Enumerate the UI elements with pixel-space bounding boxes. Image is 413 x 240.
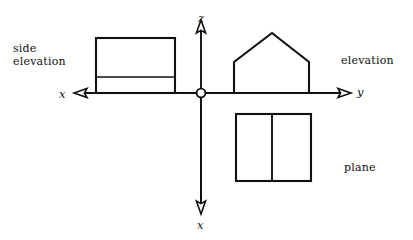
axes-group [74,20,351,214]
plane-view [236,114,311,181]
y-axis-arrowhead [338,88,351,97]
side-elevation-view [96,38,175,93]
plane-label: plane [344,161,376,174]
plane-outline [236,114,311,181]
elevation-label: elevation [341,54,394,67]
origin-marker-icon [197,89,206,98]
diagram-canvas [0,0,413,240]
x-axis-left-label: x [59,88,66,100]
x-axis-left-arrowhead [74,88,87,97]
x-axis-down-label: x [197,219,204,231]
elevation-view [234,33,309,93]
x-axis-down-arrowhead [196,201,205,214]
elevation-outline [234,33,309,93]
z-axis-label: z [198,12,204,24]
y-axis-label: y [357,86,364,98]
side-elevation-outline [96,38,175,93]
orthographic-projection-figure: side elevation elevation plane z y x x [0,0,413,240]
side-elevation-label: side elevation [13,42,66,68]
